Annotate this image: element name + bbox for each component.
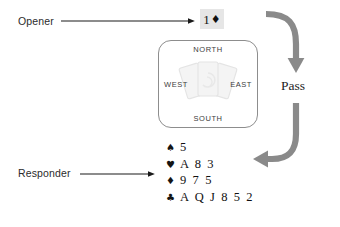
bridge-bidding-diagram: Opener 1 ♦ NORTH WEST EAST SOUTH Pass Re… bbox=[0, 0, 340, 227]
opener-label: Opener bbox=[18, 15, 54, 27]
hand-row-spades: ♠ 5 bbox=[166, 141, 254, 158]
diamond-cards: 9 7 5 bbox=[180, 174, 213, 187]
heart-cards: A 8 3 bbox=[180, 158, 215, 171]
responder-hand: ♠ 5 ♥ A 8 3 ♦ 9 7 5 ♣ A Q J 8 5 2 bbox=[166, 141, 254, 207]
pass-label: Pass bbox=[281, 78, 305, 94]
compass-east-label: EAST bbox=[230, 80, 252, 89]
opening-bid-chip[interactable]: 1 ♦ bbox=[200, 9, 224, 29]
responder-label: Responder bbox=[18, 167, 71, 179]
diamond-suit-icon: ♦ bbox=[211, 14, 221, 25]
club-suit-icon: ♣ bbox=[166, 193, 180, 203]
spade-cards: 5 bbox=[180, 141, 188, 154]
spade-suit-icon: ♠ bbox=[166, 143, 180, 153]
hand-row-hearts: ♥ A 8 3 bbox=[166, 158, 254, 175]
compass-table-box: NORTH WEST EAST SOUTH bbox=[158, 40, 258, 128]
compass-west-label: WEST bbox=[164, 80, 188, 89]
pass-outgoing-arrow bbox=[253, 103, 296, 167]
bid-level: 1 bbox=[203, 13, 210, 26]
pass-incoming-arrow bbox=[266, 14, 304, 73]
diamond-suit-icon-hand: ♦ bbox=[166, 176, 180, 186]
heart-suit-icon: ♥ bbox=[166, 160, 180, 170]
compass-south-label: SOUTH bbox=[194, 114, 223, 123]
hand-row-clubs: ♣ A Q J 8 5 2 bbox=[166, 191, 254, 208]
club-cards: A Q J 8 5 2 bbox=[180, 191, 254, 204]
compass-north-label: NORTH bbox=[193, 45, 222, 54]
hand-row-diamonds: ♦ 9 7 5 bbox=[166, 174, 254, 191]
